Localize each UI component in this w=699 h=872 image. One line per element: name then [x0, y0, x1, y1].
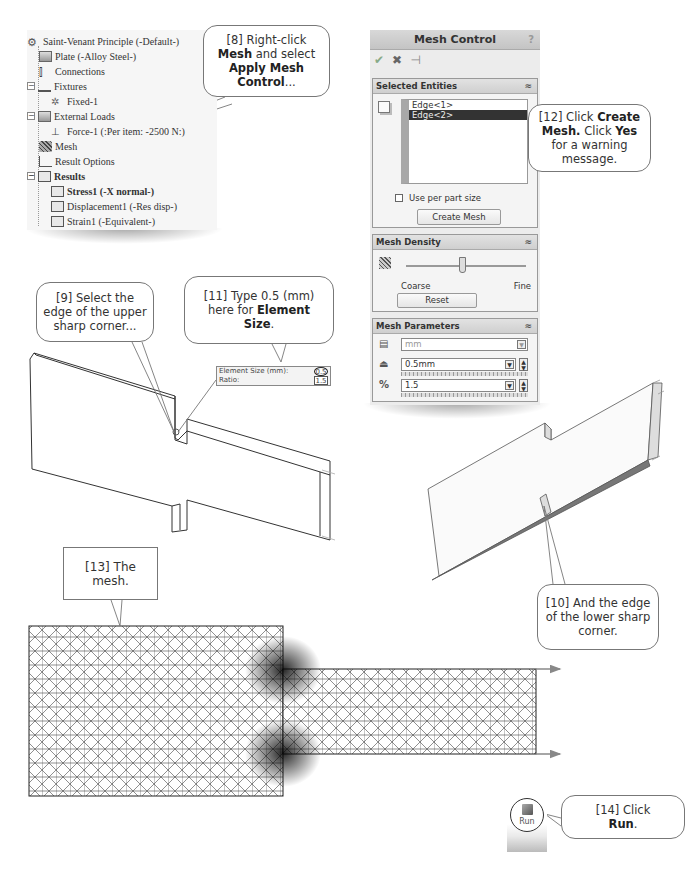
coarse-label: Coarse — [401, 281, 431, 291]
mesh-parameters-group: Mesh Parameters ≈ ▤ mm ▼ ⏏ 0.5mm ▼ ▲▼ % … — [372, 318, 538, 402]
tree-item-result-options[interactable]: Result Options — [39, 154, 115, 168]
mesh-density-icon — [379, 257, 391, 269]
group-header[interactable]: Mesh Parameters ≈ — [373, 319, 537, 334]
ratio-spinner[interactable]: ▲▼ — [519, 379, 528, 392]
collapse-chevron-icon[interactable]: ≈ — [524, 79, 532, 94]
ratio-input[interactable]: 1.5 ▼ — [401, 379, 516, 392]
fixtures-icon — [38, 81, 51, 92]
element-size-popup: Element Size (mm): Ratio: 0.5 1.5 — [216, 366, 331, 386]
callout-step-11: [11] Type 0.5 (mm) here for Element Size… — [184, 276, 334, 344]
simulation-feature-tree: ⚙ Saint-Venant Principle (-Default-) Pla… — [27, 30, 217, 230]
results-folder-icon — [38, 171, 51, 182]
fine-label: Fine — [514, 281, 531, 291]
ratio-popup-input[interactable]: 1.5 — [314, 376, 328, 385]
mesh-density-slider-thumb[interactable] — [459, 257, 466, 273]
ratio-thumbwheel[interactable] — [401, 393, 528, 397]
dropdown-arrow-icon[interactable]: ▼ — [505, 360, 514, 369]
fixed-icon: ✲ — [51, 96, 64, 107]
list-item-edge-1[interactable]: Edge<1> — [409, 100, 527, 110]
strain-plot-icon — [51, 216, 64, 227]
selected-entities-group: Selected Entities ≈ Edge<1> Edge<2> Use … — [372, 78, 538, 228]
pm-title-bar: Mesh Control ? — [370, 30, 540, 50]
mesh-density-group: Mesh Density ≈ Coarse Fine Reset — [372, 234, 538, 312]
pm-title: Mesh Control — [414, 33, 496, 46]
tree-item-results[interactable]: − Results — [27, 169, 85, 183]
reset-button[interactable]: Reset — [397, 293, 477, 308]
mesh-icon — [39, 141, 52, 152]
collapse-toggle[interactable]: − — [27, 172, 35, 180]
force-icon: ⊥ — [51, 126, 64, 137]
element-size-input[interactable]: 0.5mm ▼ — [401, 358, 516, 371]
element-size-spinner[interactable]: ▲▼ — [519, 358, 528, 371]
tree-item-mesh[interactable]: Mesh — [39, 139, 77, 153]
tree-panel-shadow — [24, 228, 224, 244]
pushpin-icon[interactable]: ⊣ — [410, 53, 420, 67]
run-icon — [522, 804, 533, 815]
pm-action-bar: ✔ ✖ ⊣ — [370, 50, 540, 70]
study-icon: ⚙ — [27, 36, 40, 47]
tree-item-force-1[interactable]: ⊥ Force-1 (:Per item: -2500 N:) — [51, 124, 185, 138]
tree-item-connections[interactable]: ⫿ Connections — [39, 64, 105, 78]
tree-item-plate[interactable]: Plate (-Alloy Steel-) — [39, 49, 136, 63]
mesh-control-property-manager: Mesh Control ? ✔ ✖ ⊣ Selected Entities ≈… — [370, 30, 540, 405]
collapse-toggle[interactable]: − — [27, 112, 35, 120]
part-icon — [39, 51, 52, 62]
mesh-figure — [29, 626, 560, 796]
element-size-icon: ⏏ — [379, 358, 388, 369]
element-size-popup-input[interactable]: 0.5 — [314, 367, 328, 376]
tree-item-study[interactable]: ⚙ Saint-Venant Principle (-Default-) — [27, 34, 179, 48]
callout-step-8: [8] Right-click Mesh and select Apply Me… — [203, 25, 330, 97]
callout-step-9: [9] Select the edge of the upper sharp c… — [36, 282, 154, 342]
run-button[interactable]: Run — [510, 798, 544, 832]
tree-item-displacement1[interactable]: Displacement1 (-Res disp-) — [51, 199, 177, 213]
displacement-plot-icon — [51, 201, 64, 212]
list-item-edge-2[interactable]: Edge<2> — [409, 110, 527, 120]
edge-selection-icon — [378, 101, 390, 113]
external-loads-icon — [38, 111, 51, 122]
help-icon[interactable]: ? — [528, 30, 534, 50]
cancel-x-icon[interactable]: ✖ — [392, 53, 402, 67]
collapse-chevron-icon[interactable]: ≈ — [524, 235, 532, 250]
use-per-part-size-row[interactable]: Use per part size — [395, 193, 481, 203]
tree-item-fixtures[interactable]: − Fixtures — [27, 79, 87, 93]
group-header[interactable]: Selected Entities ≈ — [373, 79, 537, 94]
result-options-icon — [39, 156, 52, 167]
ratio-icon: % — [379, 379, 389, 390]
dropdown-arrow-icon[interactable]: ▼ — [505, 381, 514, 390]
unit-dropdown[interactable]: mm ▼ — [401, 338, 528, 351]
mesh-density-slider-track[interactable] — [406, 265, 526, 267]
connections-icon: ⫿ — [39, 66, 52, 77]
upper-corner-marker — [173, 429, 179, 435]
collapse-chevron-icon[interactable]: ≈ — [524, 319, 532, 334]
create-mesh-button[interactable]: Create Mesh — [417, 209, 501, 225]
tree-item-strain1[interactable]: Strain1 (-Equivalent-) — [51, 214, 155, 228]
use-per-part-size-checkbox[interactable] — [395, 194, 403, 202]
element-size-thumbwheel[interactable] — [401, 372, 528, 376]
collapse-toggle[interactable]: − — [27, 82, 35, 90]
property-manager-shadow — [362, 403, 552, 419]
group-header[interactable]: Mesh Density ≈ — [373, 235, 537, 250]
tree-item-fixed-1[interactable]: ✲ Fixed-1 — [51, 94, 98, 108]
callout-step-13: [13] The mesh. — [63, 547, 158, 600]
tree-item-stress1[interactable]: Stress1 (-X normal-) — [51, 184, 154, 198]
callout-step-14: [14] Click Run. — [561, 795, 685, 839]
tree-item-external-loads[interactable]: − External Loads — [27, 109, 115, 123]
callout-step-12: [12] Click Create Mesh. Click Yes for a … — [528, 104, 651, 172]
unit-ruler-icon: ▤ — [379, 338, 388, 349]
ok-check-icon[interactable]: ✔ — [374, 53, 384, 67]
dropdown-arrow-icon[interactable]: ▼ — [517, 340, 526, 349]
stress-plot-icon — [51, 186, 64, 197]
callout-step-10: [10] And the edge of the lower sharp cor… — [537, 584, 659, 650]
selected-entities-list[interactable]: Edge<1> Edge<2> — [401, 99, 528, 184]
